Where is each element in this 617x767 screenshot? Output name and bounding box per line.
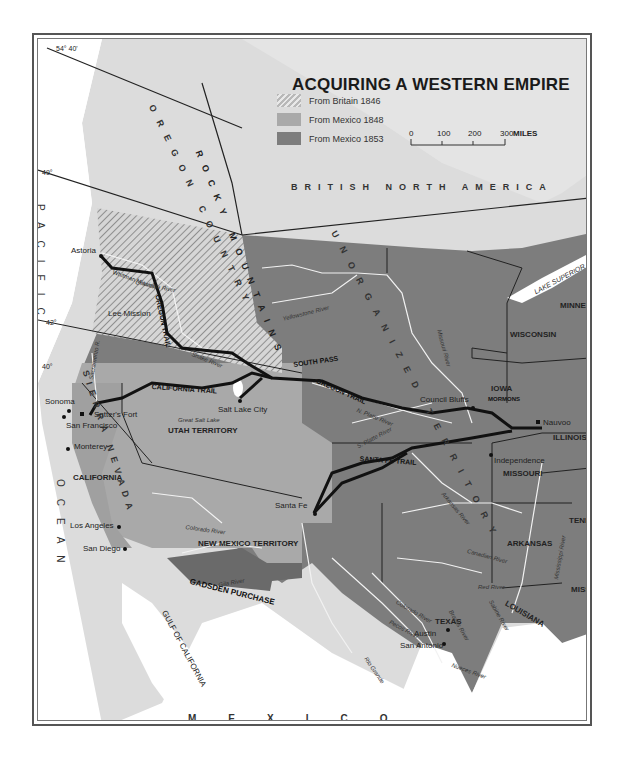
latitude-label: 40° — [42, 363, 53, 370]
state-label-california: CALIFORNIA — [73, 473, 122, 482]
legend-label: From Mexico 1853 — [309, 134, 384, 144]
legend-label: From Britain 1846 — [309, 96, 381, 106]
mid-gray-swatch-icon — [277, 113, 301, 126]
river-label-red: Red River — [478, 584, 505, 590]
legend-item-britain-1846: From Britain 1846 — [277, 94, 381, 107]
city-label-san-diego: San Diego — [83, 544, 120, 553]
latitude-label: 49° — [42, 169, 53, 176]
territory-label-new-mexico: NEW MEXICO TERRITORY — [198, 539, 298, 548]
legend-item-mexico-1848: From Mexico 1848 — [277, 113, 384, 126]
city-label-san-francisco: San Francisco — [66, 421, 117, 430]
city-label-san-antonio: San Antonio — [400, 641, 443, 650]
scale-tick: 0 — [409, 129, 413, 138]
legend-label: From Mexico 1848 — [309, 115, 384, 125]
city-label-lee-mission: Lee Mission — [108, 309, 151, 318]
map-frame: ACQUIRING A WESTERN EMPIRE From Britain … — [32, 33, 592, 726]
state-label-missouri: MISSOURI — [503, 469, 543, 478]
region-label-mexico: MEXICO — [188, 713, 419, 721]
water-label-great-salt-lake: Great Salt Lake — [178, 417, 220, 423]
region-label-british-north-america: BRITISH NORTH AMERICA — [291, 182, 553, 192]
hatched-swatch-icon — [277, 94, 301, 107]
map-canvas: ACQUIRING A WESTERN EMPIRE From Britain … — [37, 38, 587, 721]
state-label-illinois: ILLINOIS — [553, 433, 587, 442]
trail-label-mormons: MORMONS — [488, 396, 520, 402]
territory-label-utah: UTAH TERRITORY — [168, 426, 238, 435]
city-label-sonoma: Sonoma — [45, 397, 75, 406]
city-label-independence: Independence — [494, 456, 545, 465]
map-title: ACQUIRING A WESTERN EMPIRE — [292, 75, 570, 95]
city-label-salt-lake-city: Salt Lake City — [218, 405, 267, 414]
state-label-wisconsin: WISCONSIN — [510, 330, 556, 339]
city-label-sutters-fort: Sutter's Fort — [94, 410, 137, 419]
scale-bar: 0 100 200 300 MILES — [409, 133, 509, 151]
city-label-astoria: Astoria — [71, 246, 96, 255]
latitude-label: 42° — [46, 319, 57, 326]
region-label-ocean: OCEAN — [55, 479, 66, 575]
state-label-iowa: IOWA — [491, 384, 512, 393]
scale-unit: MILES — [513, 129, 537, 138]
scale-tick: 300 — [500, 129, 513, 138]
state-label-tennessee: TENN. — [569, 516, 587, 525]
region-label-pacific: PACIFIC — [37, 204, 46, 327]
city-label-monterey: Monterey — [74, 442, 107, 451]
dark-gray-swatch-icon — [277, 132, 301, 145]
scale-tick: 200 — [468, 129, 481, 138]
city-label-nauvoo: Nauvoo — [543, 418, 571, 427]
city-label-los-angeles: Los Angeles — [70, 521, 114, 530]
scale-tick: 100 — [437, 129, 450, 138]
scale-ruler-icon — [409, 133, 509, 147]
city-label-council-bluffs: Council Bluffs — [420, 395, 469, 404]
latitude-label: 54° 40' — [56, 45, 78, 52]
legend-item-mexico-1853: From Mexico 1853 — [277, 132, 384, 145]
territory-label-minnesota: MINNESOTA TERRITORY — [560, 301, 587, 310]
state-label-arkansas: ARKANSAS — [507, 539, 552, 548]
city-label-santa-fe: Santa Fe — [275, 501, 307, 510]
state-label-mississippi: MISS. — [571, 585, 587, 594]
